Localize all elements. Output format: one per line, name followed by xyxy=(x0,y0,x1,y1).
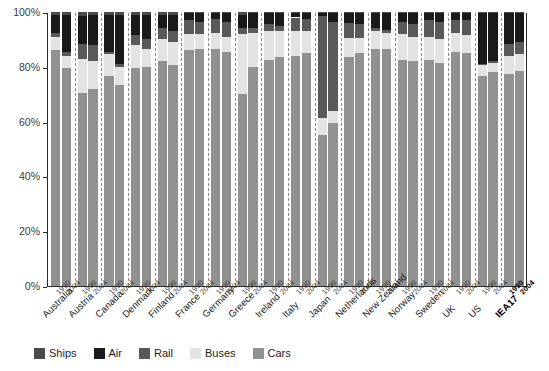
bar-segment-ships xyxy=(408,12,417,13)
bar[interactable] xyxy=(88,13,97,286)
bar[interactable] xyxy=(478,13,487,286)
bar-segment-air xyxy=(222,13,231,21)
bar[interactable] xyxy=(382,13,391,286)
bar[interactable] xyxy=(238,13,247,286)
bar-segment-buses xyxy=(275,31,284,57)
bar-segment-ships xyxy=(142,12,151,15)
bar[interactable] xyxy=(504,13,513,286)
bar-group-germany xyxy=(208,13,235,286)
bar[interactable] xyxy=(291,13,300,286)
bar-segment-air xyxy=(328,13,337,21)
bar[interactable] xyxy=(302,13,311,286)
bar[interactable] xyxy=(78,13,87,286)
legend-label: Buses xyxy=(205,347,236,359)
chart-root: 0%20%40%60%80%100% 19902004Australia1990… xyxy=(0,0,549,371)
bar-segment-cars xyxy=(344,57,353,286)
bar-segment-ships xyxy=(371,12,380,13)
legend-swatch-icon xyxy=(34,348,45,359)
bar-segment-rail xyxy=(462,20,471,35)
bar[interactable] xyxy=(275,13,284,286)
legend-item-ships[interactable]: Ships xyxy=(34,347,77,359)
bar-group-austria xyxy=(75,13,102,286)
bar[interactable] xyxy=(142,13,151,286)
bar[interactable] xyxy=(451,13,460,286)
bar-segment-air xyxy=(88,15,97,45)
bar[interactable] xyxy=(435,13,444,286)
bar-segment-ships xyxy=(211,12,220,13)
bar-segment-ships xyxy=(424,12,433,13)
bar-segment-ships xyxy=(168,12,177,15)
bar[interactable] xyxy=(62,13,71,286)
bar-segment-ships xyxy=(515,12,524,13)
bar[interactable] xyxy=(344,13,353,286)
bar[interactable] xyxy=(184,13,193,286)
bar[interactable] xyxy=(51,13,60,286)
bar-segment-air xyxy=(451,13,460,20)
bar[interactable] xyxy=(424,13,433,286)
bar[interactable] xyxy=(371,13,380,286)
bar-segment-rail xyxy=(382,30,391,33)
bar[interactable] xyxy=(104,13,113,286)
bar[interactable] xyxy=(515,13,524,286)
bar-segment-rail xyxy=(51,33,60,37)
bar-segment-buses xyxy=(478,65,487,76)
bar-segment-cars xyxy=(302,53,311,286)
bar-segment-rail xyxy=(248,28,257,32)
bar-segment-cars xyxy=(78,93,87,286)
bar[interactable] xyxy=(195,13,204,286)
bar-segment-rail xyxy=(355,24,364,38)
bar-segment-ships xyxy=(78,12,87,16)
bar-group-iea17 xyxy=(501,13,528,286)
bar-segment-ships xyxy=(488,12,497,13)
legend-item-rail[interactable]: Rail xyxy=(139,347,173,359)
legend-item-air[interactable]: Air xyxy=(94,347,122,359)
bar-segment-ships xyxy=(451,12,460,13)
bar-segment-cars xyxy=(238,94,247,286)
bar[interactable] xyxy=(131,13,140,286)
bar[interactable] xyxy=(398,13,407,286)
legend-item-buses[interactable]: Buses xyxy=(190,347,236,359)
bar-segment-cars xyxy=(435,63,444,286)
bar-segment-ships xyxy=(131,12,140,15)
bar-segment-cars xyxy=(451,52,460,286)
bar-segment-cars xyxy=(211,49,220,286)
bar[interactable] xyxy=(158,13,167,286)
bar-group-australia xyxy=(48,13,75,286)
bar-segment-rail xyxy=(371,28,380,31)
bar-segment-ships xyxy=(115,12,124,15)
bar-segment-buses xyxy=(168,42,177,65)
bar[interactable] xyxy=(355,13,364,286)
x-axis-category-label: US xyxy=(466,302,483,319)
legend-item-cars[interactable]: Cars xyxy=(253,347,291,359)
bar-group-us xyxy=(475,13,502,286)
bar[interactable] xyxy=(408,13,417,286)
bar-segment-ships xyxy=(195,12,204,13)
bar[interactable] xyxy=(462,13,471,286)
bar[interactable] xyxy=(222,13,231,286)
bar[interactable] xyxy=(318,13,327,286)
bar-segment-cars xyxy=(195,49,204,286)
bar-group-denmark xyxy=(128,13,155,286)
bar-segment-rail xyxy=(504,44,513,56)
x-axis-category-label: Italy xyxy=(280,299,301,320)
bar[interactable] xyxy=(328,13,337,286)
legend-swatch-icon xyxy=(190,348,201,359)
bar-segment-air xyxy=(488,13,497,61)
bar-segment-rail xyxy=(131,35,140,45)
bar-group-norway xyxy=(395,13,422,286)
bar-segment-buses xyxy=(488,63,497,73)
bar[interactable] xyxy=(168,13,177,286)
bar[interactable] xyxy=(211,13,220,286)
bar[interactable] xyxy=(248,13,257,286)
legend-swatch-icon xyxy=(253,348,264,359)
bar[interactable] xyxy=(488,13,497,286)
bar-segment-cars xyxy=(168,65,177,286)
bar[interactable] xyxy=(115,13,124,286)
bar-segment-buses xyxy=(104,54,113,76)
bar-segment-cars xyxy=(515,71,524,286)
bar-segment-air xyxy=(62,15,71,52)
bar-segment-cars xyxy=(104,76,113,286)
bar-segment-buses xyxy=(302,31,311,53)
legend-label: Cars xyxy=(268,347,291,359)
bar[interactable] xyxy=(264,13,273,286)
